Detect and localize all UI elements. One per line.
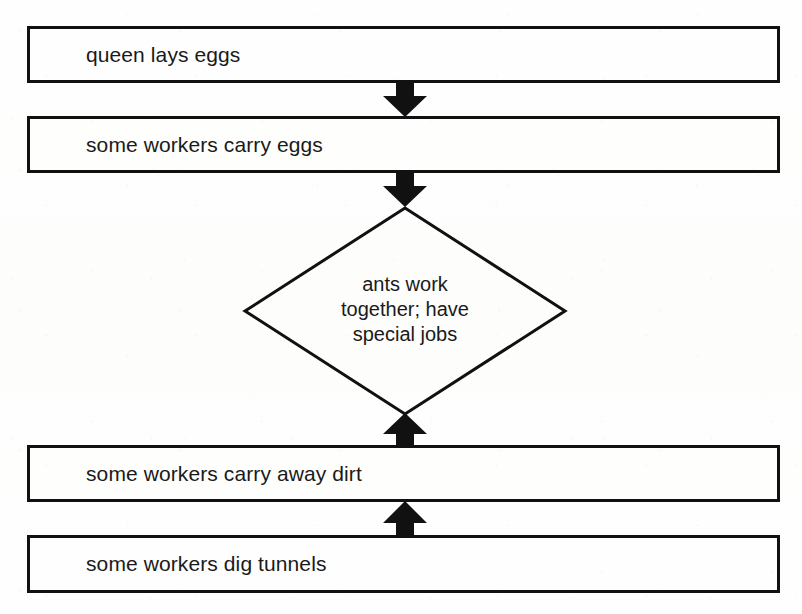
flowchart-node-some-workers-carry-away-dirt[interactable]: some workers carry away dirt	[27, 445, 780, 502]
flowchart-node-label: some workers carry eggs	[30, 133, 323, 157]
flowchart-node-queen-lays-eggs[interactable]: queen lays eggs	[27, 26, 780, 83]
flowchart-node-label: queen lays eggs	[30, 43, 240, 67]
flowchart-node-label: ants work together; have special jobs	[242, 272, 568, 347]
paper-texture	[0, 0, 802, 614]
diamond-shape	[242, 205, 568, 417]
flowchart-node-some-workers-dig-tunnels[interactable]: some workers dig tunnels	[27, 535, 780, 593]
connector-arrow-up-carry-away-dirt-to-decision	[381, 412, 429, 448]
diamond-label-line-3: special jobs	[242, 322, 568, 347]
flowchart-node-some-workers-carry-eggs[interactable]: some workers carry eggs	[27, 116, 780, 173]
connector-arrow-up-dig-tunnels-to-carry-away-dirt	[381, 500, 429, 538]
flowchart-node-label: some workers carry away dirt	[30, 462, 362, 486]
connector-arrow-down-carry-eggs-to-decision	[381, 172, 429, 208]
connector-arrow-down-queen-to-carry-eggs	[381, 82, 429, 118]
flowchart-node-label: some workers dig tunnels	[30, 552, 327, 576]
diamond-label-line-1: ants work	[242, 272, 568, 297]
flowchart-node-ants-work-together[interactable]: ants work together; have special jobs	[242, 205, 568, 417]
diamond-label-line-2: together; have	[242, 297, 568, 322]
flowchart-page: queen lays eggs some workers carry eggs …	[0, 0, 802, 614]
